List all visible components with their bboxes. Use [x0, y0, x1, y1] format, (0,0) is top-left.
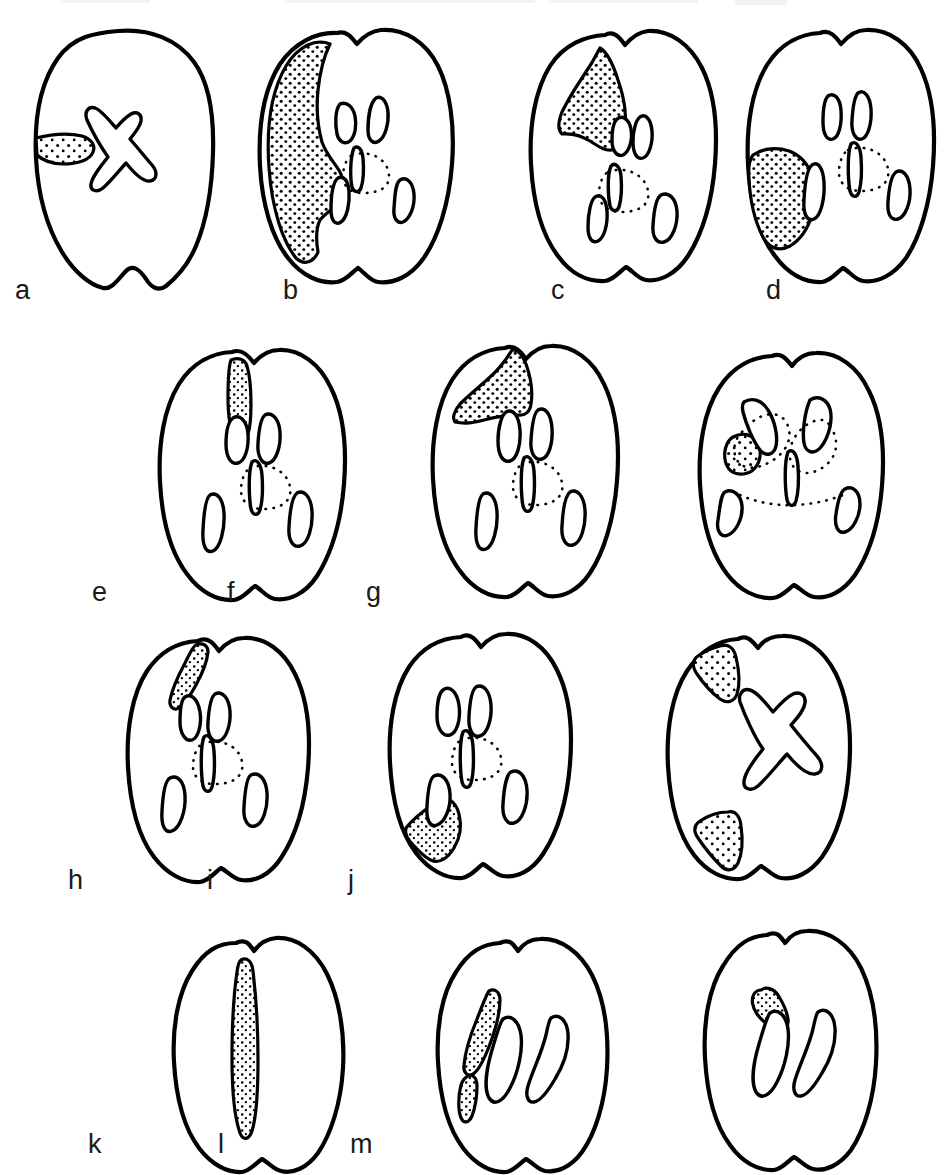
ventricle-d-right-temporal — [888, 171, 910, 219]
ventricle-f-left-temporal — [476, 493, 497, 550]
ventricle-d-left-horn — [823, 95, 841, 140]
panel-e: e — [92, 350, 345, 607]
ventricle-c-left-horn — [612, 117, 632, 155]
ventricle-c-third-slit — [608, 164, 621, 210]
brain-outline-m — [705, 931, 877, 1170]
ventricle-c-right-horn — [633, 116, 652, 158]
ventricle-e-left-horn — [226, 417, 248, 463]
panel-k: k — [88, 938, 343, 1172]
cropped-text-remnant — [60, 0, 787, 5]
ventricle-c-left-temporal — [588, 196, 607, 242]
ventricle-d-left-temporal — [804, 164, 824, 220]
ventricle-d-third-slit — [848, 143, 861, 197]
brain-sections-figure: a b c — [0, 0, 947, 1175]
panel-label-i: i — [207, 865, 213, 895]
panel-label-c: c — [551, 275, 565, 305]
ventricle-i-right-horn — [469, 686, 491, 736]
panel-label-g: g — [366, 577, 381, 607]
panel-label-b: b — [283, 275, 298, 305]
panel-label-k: k — [88, 1129, 102, 1159]
panel-b: b — [260, 30, 453, 305]
ventricle-b-left-horn — [336, 103, 356, 143]
panel-label-h: h — [68, 865, 83, 895]
figure-container: a b c — [0, 0, 947, 1175]
panel-h: h — [68, 638, 309, 895]
panel-label-f: f — [227, 577, 235, 607]
panel-d: d — [748, 30, 934, 305]
ventricle-b-right-horn — [368, 97, 388, 142]
panel-label-l: l — [218, 1129, 224, 1159]
ventricle-h-right-temporal — [244, 774, 267, 826]
ventricle-c-right-temporal — [653, 194, 677, 242]
ventricle-e-right-horn — [258, 414, 280, 463]
panel-label-a: a — [15, 275, 31, 305]
panel-label-m: m — [350, 1129, 373, 1159]
ventricle-h-right-horn — [208, 693, 230, 741]
panel-c: c — [531, 31, 716, 305]
ventricle-f-left-horn — [498, 411, 520, 461]
ventricle-b-left-temporal — [331, 177, 349, 223]
panel-a: a — [15, 31, 213, 305]
brain-outline-h — [128, 638, 309, 882]
panel-m: m — [350, 931, 876, 1170]
ventricle-e-left-temporal — [203, 494, 224, 552]
ventricle-i-right-temporal — [503, 771, 527, 823]
lesion-k-left-parasagittal-band — [232, 959, 258, 1138]
ventricle-f-right-temporal — [562, 491, 585, 545]
ventricle-d-right-horn — [852, 92, 871, 139]
ventricle-h-left-horn — [180, 696, 201, 740]
brain-outline-l — [438, 939, 608, 1172]
panel-label-e: e — [92, 577, 107, 607]
ventricle-f-right-horn — [531, 409, 552, 459]
panel-label-j: j — [347, 865, 354, 895]
ventricle-i-left-horn — [437, 688, 460, 735]
ventricle-b-right-temporal — [394, 179, 414, 223]
ventricle-e-right-temporal — [289, 492, 312, 546]
panel-label-d: d — [766, 275, 781, 305]
ventricle-g-third-slit — [785, 451, 798, 506]
lesion-a-left-lateral — [36, 134, 94, 164]
